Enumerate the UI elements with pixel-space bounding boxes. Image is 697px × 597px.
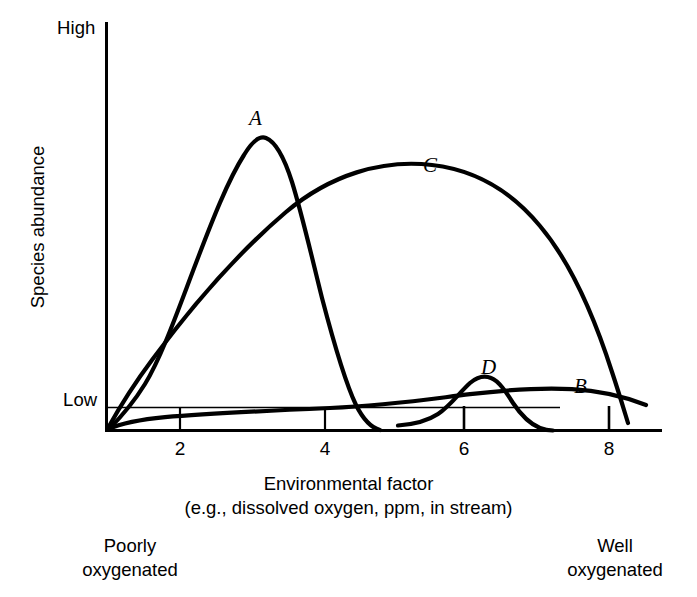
x-tick-label-4: 4 <box>305 438 345 459</box>
x-axis-title-main: Environmental factor <box>264 473 434 494</box>
poorly-oxygenated-line1: Poorly <box>104 535 156 556</box>
well-oxygenated-note: Well oxygenated <box>545 534 685 583</box>
x-tick-marks <box>180 406 609 430</box>
curve-label-d: D <box>481 355 496 380</box>
curve-D <box>398 377 553 431</box>
x-tick-label-6: 6 <box>444 438 484 459</box>
well-oxygenated-line2: oxygenated <box>567 559 663 580</box>
curve-label-a: A <box>249 106 262 131</box>
axis-group <box>105 22 662 431</box>
curve-B <box>108 389 647 430</box>
y-axis-high-label: High <box>57 18 95 39</box>
y-axis-title: Species abundance <box>27 127 49 327</box>
curve-A <box>109 137 380 430</box>
poorly-oxygenated-note: Poorly oxygenated <box>55 534 205 583</box>
curve-label-c: C <box>423 153 437 178</box>
poorly-oxygenated-line2: oxygenated <box>82 559 178 580</box>
x-tick-label-8: 8 <box>589 438 629 459</box>
x-tick-label-2: 2 <box>160 438 200 459</box>
y-axis-low-label: Low <box>63 390 97 411</box>
curve-label-b: B <box>574 374 587 399</box>
x-axis-title-block: Environmental factor (e.g., dissolved ox… <box>0 473 697 519</box>
well-oxygenated-line1: Well <box>597 535 633 556</box>
x-axis-title-detail: (e.g., dissolved oxygen, ppm, in stream) <box>0 497 697 519</box>
figure-container: High Low Species abundance 2 4 6 8 Envir… <box>0 0 697 597</box>
